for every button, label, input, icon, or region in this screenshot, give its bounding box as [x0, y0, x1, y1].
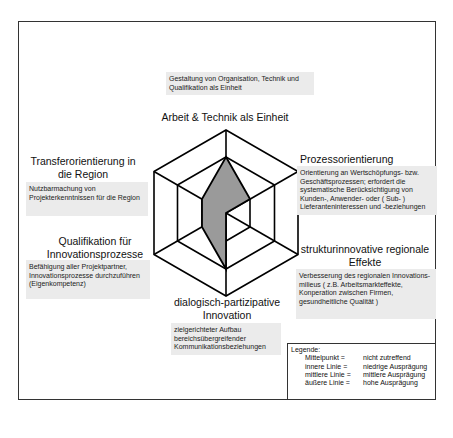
axis-qualifikation-title: Qualifikation für Innovationsprozesse [40, 235, 150, 261]
axis-struktur-title: strukturinnovative regionale Effekte [295, 243, 435, 269]
legend-value: hohe Ausprägung [363, 379, 418, 387]
legend-row: mittlere Linie = mittlere Ausprägung [291, 371, 432, 379]
axis-prozess-title: Prozessorientierung [300, 153, 410, 166]
legend-box: Legende: Mittelpunkt = nicht zutreffend … [287, 343, 436, 400]
legend-key: innere Linie = [291, 363, 363, 371]
legend-value: niedrige Ausprägung [363, 363, 427, 371]
legend-value: nicht zutreffend [363, 354, 411, 362]
legend-row: Mittelpunkt = nicht zutreffend [291, 354, 432, 362]
legend-row: äußere Linie = hohe Ausprägung [291, 379, 432, 387]
legend-value: mittlere Ausprägung [363, 371, 425, 379]
legend-key: Mittelpunkt = [291, 354, 363, 362]
axis-struktur-description: Verbesserung des regionalen Innovations-… [296, 269, 436, 319]
legend-title: Legende: [291, 346, 432, 354]
axis-transfer-title: Transferorientierung in die Region [28, 155, 138, 181]
axis-arbeit-title: Arbeit & Technik als Einheit [140, 111, 310, 124]
legend-row: innere Linie = niedrige Ausprägung [291, 363, 432, 371]
axis-transfer-description: Nutzbarmachung von Projekterkenntnissen … [26, 182, 148, 216]
axis-dialog-description: zielgerichteter Aufbau bereichsübergreif… [171, 323, 281, 355]
axis-arbeit-description: Gestaltung von Organisation, Technik und… [166, 72, 314, 95]
legend-key: mittlere Linie = [291, 371, 363, 379]
axis-qualifikation-description: Befähigung aller Projektpartner, Innovat… [26, 260, 150, 299]
axis-prozess-description: Orientierung an Wertschöpfungs- bzw. Ges… [297, 166, 437, 215]
profile-area [202, 157, 250, 269]
legend-key: äußere Linie = [291, 379, 363, 387]
axis-dialog-title: dialogisch-partizipative Innovation [172, 296, 282, 322]
